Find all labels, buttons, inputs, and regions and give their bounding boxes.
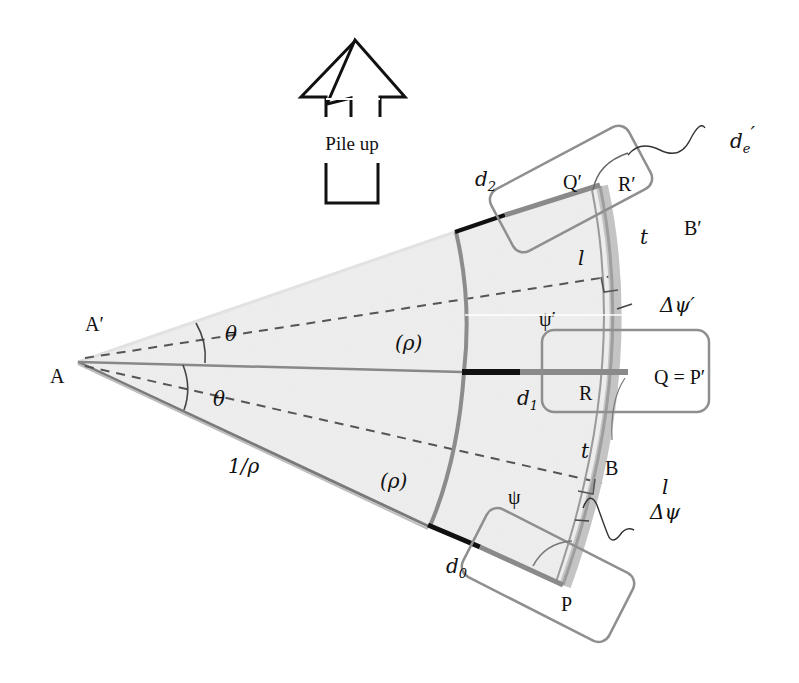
label-B: B — [605, 457, 618, 479]
pile-up-arrow-icon — [301, 40, 405, 203]
label-radius: 1/ρ — [228, 454, 259, 478]
label-theta-upper: θ — [225, 322, 237, 346]
label-psi-prime: ψ′ — [539, 308, 556, 331]
label-de-prime: de′ — [730, 122, 756, 156]
pile-up-label: Pile up — [325, 133, 378, 154]
label-d2: d2 — [475, 167, 496, 194]
label-A-prime: A′ — [85, 313, 104, 335]
label-t-upper: t — [640, 225, 649, 249]
label-Q-eq-P-prime: Q = P′ — [654, 366, 705, 388]
label-delta-psi: Δψ — [649, 500, 680, 524]
wedge-pile-up-diagram: Pile up A A′ B B′ P Q′ R′ R Q = P′ θ θ ψ… — [0, 0, 799, 683]
label-l-upper: l — [578, 246, 584, 270]
label-rho-upper: (ρ) — [395, 331, 422, 355]
label-A: A — [50, 365, 65, 387]
label-R-prime: R′ — [618, 173, 636, 195]
label-R: R — [579, 382, 593, 404]
label-psi: ψ — [508, 486, 521, 509]
label-Q-prime: Q′ — [563, 171, 582, 193]
label-theta-lower: θ — [213, 387, 225, 411]
label-t-lower: t — [581, 439, 590, 463]
label-l-lower: l — [662, 475, 668, 499]
label-rho-lower: (ρ) — [380, 469, 407, 493]
label-P: P — [561, 593, 572, 615]
label-B-prime: B′ — [684, 217, 702, 239]
label-delta-psi-prime: Δψ′ — [659, 293, 695, 317]
arrow-gap-mask — [326, 98, 380, 100]
